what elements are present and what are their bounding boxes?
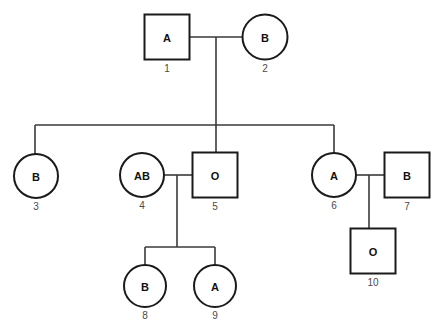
- blood-type-label-2: B: [261, 32, 269, 44]
- blood-type-label-4: AB: [134, 170, 150, 182]
- individual-number-8: 8: [142, 310, 148, 321]
- blood-type-label-6: A: [330, 170, 338, 182]
- individual-number-6: 6: [331, 200, 337, 211]
- blood-type-label-8: B: [141, 281, 149, 293]
- individual-3: B3: [14, 154, 58, 212]
- individual-4: AB4: [120, 153, 164, 211]
- individual-5: O5: [193, 153, 238, 212]
- blood-type-label-10: O: [369, 246, 378, 258]
- individual-nodes-layer: A1B2B3AB4O5A6B7B8A9O10: [14, 15, 430, 322]
- individual-8: B8: [124, 265, 166, 321]
- pedigree-diagram: A1B2B3AB4O5A6B7B8A9O10: [0, 0, 441, 329]
- blood-type-label-5: O: [211, 170, 220, 182]
- individual-number-9: 9: [212, 310, 218, 321]
- blood-type-label-7: B: [403, 170, 411, 182]
- individual-6: A6: [312, 153, 356, 211]
- individual-2: B2: [243, 15, 288, 74]
- individual-number-5: 5: [212, 201, 218, 212]
- pedigree-svg-canvas: A1B2B3AB4O5A6B7B8A9O10: [0, 0, 441, 329]
- blood-type-label-3: B: [32, 171, 40, 183]
- individual-number-10: 10: [367, 277, 379, 288]
- individual-9: A9: [194, 265, 236, 321]
- blood-type-label-1: A: [163, 32, 171, 44]
- blood-type-label-9: A: [211, 281, 219, 293]
- connection-lines-layer: [35, 37, 385, 265]
- individual-10: O10: [351, 229, 396, 288]
- individual-number-2: 2: [262, 63, 268, 74]
- individual-number-3: 3: [33, 201, 39, 212]
- individual-number-4: 4: [139, 200, 145, 211]
- individual-7: B7: [385, 153, 430, 212]
- individual-number-7: 7: [404, 201, 410, 212]
- individual-number-1: 1: [164, 63, 170, 74]
- individual-1: A1: [145, 15, 190, 74]
